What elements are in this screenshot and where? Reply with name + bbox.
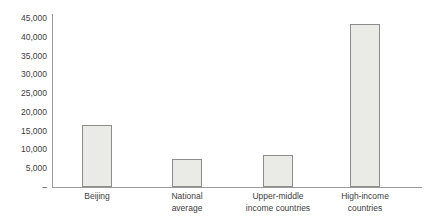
plot-area: 45,00040,00035,00030,00025,00020,00015,0…: [0, 0, 437, 223]
y-axis-tick-label: 35,000: [0, 51, 47, 61]
x-axis-label-line: National: [171, 191, 202, 203]
x-axis-label: Upper-middleincome countries: [246, 191, 310, 214]
x-axis-label: Beijing: [84, 191, 110, 203]
x-axis-label-line: average: [171, 203, 202, 215]
y-axis-tick-label: 15,000: [0, 126, 47, 136]
y-axis-tick-label: 10,000: [0, 144, 47, 154]
x-axis-label-line: Beijing: [84, 191, 110, 203]
y-axis-tick-label: 45,000: [0, 13, 47, 23]
bar: [172, 159, 202, 187]
x-axis-label: High-incomecountries: [341, 191, 389, 214]
bar: [263, 155, 293, 187]
y-axis-line: [52, 14, 53, 188]
y-axis-tick-label: 25,000: [0, 88, 47, 98]
x-axis-label-line: countries: [341, 203, 389, 215]
bar-chart-figure: 45,00040,00035,00030,00025,00020,00015,0…: [0, 0, 437, 223]
x-axis-label-line: Upper-middle: [246, 191, 310, 203]
y-axis-tick-label: –: [0, 182, 47, 192]
bar: [82, 125, 112, 187]
y-axis-tick-label: 40,000: [0, 32, 47, 42]
x-axis-line: [52, 187, 422, 188]
x-axis-label-line: income countries: [246, 203, 310, 215]
x-axis-label-line: High-income: [341, 191, 389, 203]
y-axis-tick-label: 20,000: [0, 107, 47, 117]
bar: [350, 24, 380, 187]
y-axis-tick-label: 5,000: [0, 163, 47, 173]
y-axis-tick-label: 30,000: [0, 69, 47, 79]
x-axis-label: Nationalaverage: [171, 191, 202, 214]
